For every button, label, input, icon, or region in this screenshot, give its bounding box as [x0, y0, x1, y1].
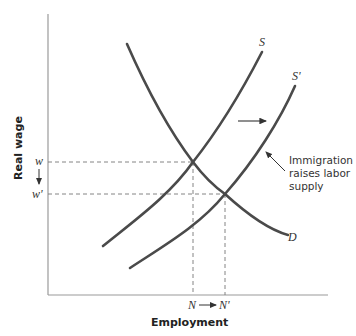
annotation-arrow-icon: [266, 152, 285, 171]
supply-curve-shifted: [130, 86, 295, 268]
y-axis-title: Real wage: [12, 116, 25, 180]
employment-n-prime-label: N': [218, 298, 230, 312]
x-axis-title: Employment: [151, 316, 228, 329]
supply-shifted-label: S': [292, 69, 301, 83]
wage-w-prime-label: w': [32, 187, 43, 201]
supply-label: S: [259, 35, 265, 49]
wage-w-label: w: [35, 154, 43, 168]
employment-n-label: N: [187, 298, 197, 312]
annotation-text: Immigration raises labor supply: [289, 154, 356, 192]
labor-market-diagram: S S' D Immigration raises labor supply w…: [0, 0, 356, 336]
demand-label: D: [287, 230, 297, 244]
